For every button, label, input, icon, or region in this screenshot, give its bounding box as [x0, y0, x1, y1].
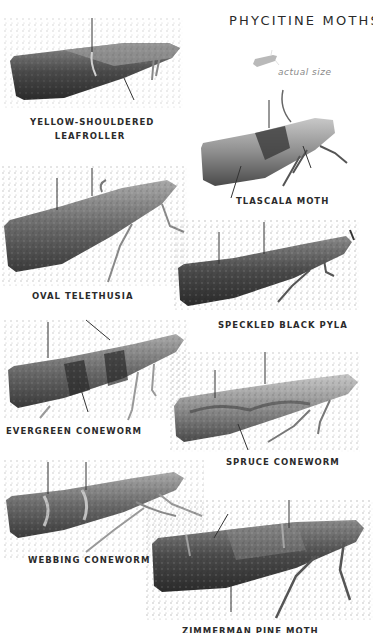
moth-tlascala — [195, 88, 355, 198]
label-oval-telethusia: OVAL TELETHUSIA — [32, 291, 133, 301]
actual-size-caption: actual size — [278, 67, 332, 77]
label-spruce-coneworm: SPRUCE CONEWORM — [226, 457, 340, 467]
label-yellow-shouldered-leafroller: YELLOW-SHOULDERED LEAFROLLER — [30, 115, 150, 143]
moth-zimmerman-pine-moth — [146, 500, 373, 620]
label-evergreen-coneworm: EVERGREEN CONEWORM — [6, 426, 142, 436]
page-title: PHYCITINE MOTHS — [229, 13, 373, 28]
label-speckled-black-pyla: SPECKLED BLACK PYLA — [218, 320, 348, 330]
moth-evergreen-coneworm — [4, 320, 189, 420]
label-webbing-coneworm: WEBBING CONEWORM — [28, 555, 150, 565]
moth-yellow-shouldered-leafroller — [4, 18, 184, 108]
label-tlascala-moth: TLASCALA MOTH — [236, 196, 329, 206]
moth-oval-telethusia — [2, 166, 187, 286]
moth-spruce-coneworm — [170, 352, 360, 452]
moth-speckled-black-pyla — [174, 220, 359, 310]
label-zimmerman-pine-moth: ZIMMERMAN PINE MOTH — [182, 626, 319, 633]
actual-size-silhouette-icon — [251, 50, 281, 70]
